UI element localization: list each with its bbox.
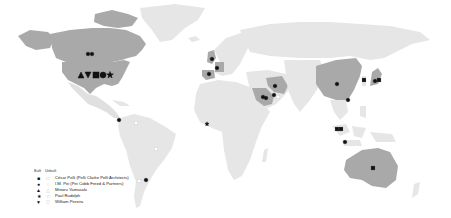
land-iceland [188, 36, 200, 42]
land-uk [207, 50, 216, 64]
marker-circle-built-icon [346, 98, 350, 102]
marker-square-built-icon [377, 78, 381, 82]
marker-circle-built-icon [335, 82, 339, 86]
marker-circle-built-icon [373, 79, 377, 83]
land-japan [370, 68, 382, 86]
marker-circle-built-icon [207, 72, 211, 76]
land-alaska [18, 30, 54, 50]
legend-header-unbuilt: Unbuilt [45, 168, 56, 174]
legend: Built Unbuilt ■ □ César Pelli (Pelli Cla… [34, 168, 129, 205]
land-madagascar [262, 148, 268, 162]
marker-square-built-icon [371, 166, 375, 170]
marker-circle-built-icon [273, 84, 277, 88]
land-caribbean [112, 100, 130, 106]
marker-circle-built-icon [264, 96, 268, 100]
land-canada [50, 28, 146, 62]
marker-square-unbuilt-icon [276, 95, 280, 99]
land-russia [240, 22, 430, 60]
marker-square-built-icon [335, 127, 339, 131]
marker-square-unbuilt-icon [134, 121, 138, 125]
marker-square-unbuilt-icon [137, 179, 141, 183]
marker-square-unbuilt-icon [154, 147, 158, 151]
land-china [316, 58, 362, 100]
legend-header-built: Built [34, 168, 41, 174]
land-canada-arctic [94, 10, 138, 28]
marker-circle-built-icon [100, 72, 106, 78]
marker-circle-built-icon [117, 118, 121, 122]
legend-header: Built Unbuilt [34, 168, 129, 174]
marker-circle-built-icon [272, 93, 276, 97]
marker-circle-built-icon [90, 52, 94, 56]
legend-item: ▼ ▽ William Pereira [34, 199, 129, 205]
marker-circle-built-icon [210, 57, 214, 61]
marker-circle-built-icon [144, 178, 148, 182]
marker-circle-built-icon [86, 52, 90, 56]
triangle-down-filled-icon: ▼ [34, 199, 43, 205]
marker-square-built-icon [93, 72, 99, 78]
land-new-zealand [412, 182, 420, 198]
marker-circle-built-icon [343, 140, 347, 144]
marker-square-built-icon [339, 127, 343, 131]
land-philippines [360, 106, 366, 118]
marker-circle-built-icon [215, 66, 219, 70]
legend-label: William Pereira [55, 199, 83, 205]
land-southeast-asia [330, 100, 348, 120]
marker-square-built-icon [362, 78, 366, 82]
triangle-down-outline-icon: ▽ [43, 199, 53, 205]
